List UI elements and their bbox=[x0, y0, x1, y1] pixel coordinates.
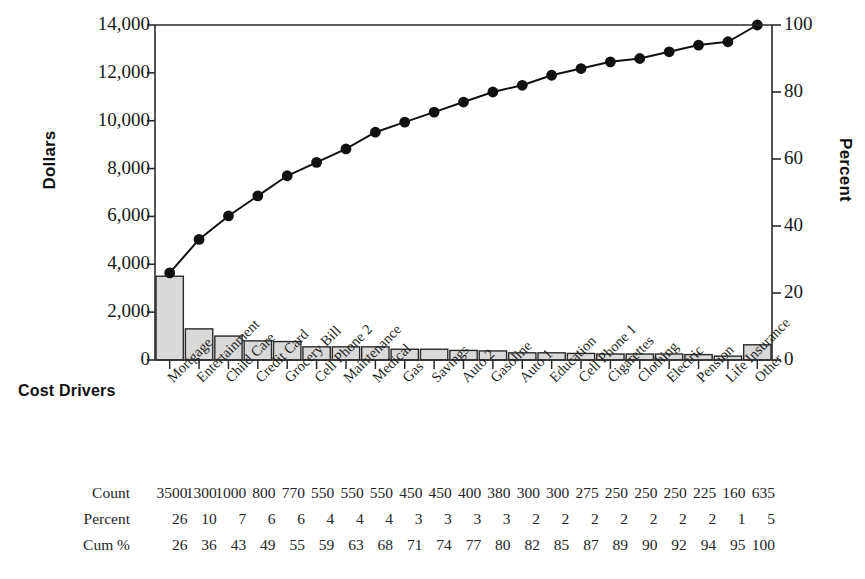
y-tick-label-left: 2,000 bbox=[58, 300, 150, 322]
y-tick-label-right: 60 bbox=[784, 147, 844, 169]
line-marker bbox=[429, 107, 440, 118]
line-marker bbox=[252, 190, 263, 201]
line-marker bbox=[634, 53, 645, 64]
table-row-cum-percent: Cum %26364349555963687174778082858789909… bbox=[0, 532, 859, 558]
y-tick-label-right: 80 bbox=[784, 80, 844, 102]
y-tick-label-left: 8,000 bbox=[58, 157, 150, 179]
y-axis-right-title: Percent bbox=[835, 115, 855, 225]
table-row-count: Count35001300100080077055055055045045040… bbox=[0, 480, 859, 506]
y-tick-label-left: 14,000 bbox=[58, 13, 150, 35]
y-tick-label-right: 40 bbox=[784, 214, 844, 236]
y-tick-label-right: 100 bbox=[784, 13, 844, 35]
line-marker bbox=[282, 170, 293, 181]
line-marker bbox=[664, 46, 675, 57]
line-marker bbox=[487, 87, 498, 98]
line-marker bbox=[458, 97, 469, 108]
axis-ticks bbox=[147, 25, 781, 369]
table-values-cell: 2636434955596368717477808285878990929495… bbox=[139, 532, 859, 558]
pareto-data-table: Count35001300100080077055055055045045040… bbox=[0, 480, 865, 558]
cumulative-line-series bbox=[164, 20, 762, 279]
line-marker bbox=[517, 80, 528, 91]
table-row-label: Count bbox=[0, 480, 139, 506]
y-tick-label-left: 6,000 bbox=[58, 204, 150, 226]
y-tick-label-left: 4,000 bbox=[58, 252, 150, 274]
line-marker bbox=[693, 40, 704, 51]
line-marker bbox=[370, 127, 381, 138]
line-marker bbox=[164, 268, 175, 279]
y-tick-label-left: 12,000 bbox=[58, 61, 150, 83]
table-row-label: Cum % bbox=[0, 532, 139, 558]
y-tick-label-right: 20 bbox=[784, 281, 844, 303]
bar bbox=[156, 276, 183, 360]
line-marker bbox=[546, 70, 557, 81]
table-value: 100 bbox=[139, 536, 775, 554]
line-marker bbox=[194, 234, 205, 245]
plot-frame bbox=[155, 25, 772, 360]
line-marker bbox=[399, 117, 410, 128]
table-value: 5 bbox=[139, 510, 775, 528]
y-tick-label-right: 0 bbox=[784, 348, 844, 370]
y-tick-label-left: 10,000 bbox=[58, 109, 150, 131]
line-marker bbox=[605, 56, 616, 67]
line-marker bbox=[576, 63, 587, 74]
y-tick-label-left: 0 bbox=[58, 348, 150, 370]
y-axis-left-title: Dollars bbox=[40, 105, 60, 215]
x-axis-title: Cost Drivers bbox=[18, 382, 116, 400]
cumulative-line bbox=[170, 25, 758, 273]
line-marker bbox=[223, 211, 234, 222]
table-values-cell: 26107664443333222222215 bbox=[139, 506, 859, 532]
line-marker bbox=[723, 36, 734, 47]
table-value: 635 bbox=[139, 484, 775, 502]
data-table-grid: Count35001300100080077055055055045045040… bbox=[0, 480, 859, 558]
line-marker bbox=[341, 144, 352, 155]
line-marker bbox=[311, 157, 322, 168]
table-row-percent: Percent26107664443333222222215 bbox=[0, 506, 859, 532]
table-values-cell: 3500130010008007705505505504504504003803… bbox=[139, 480, 859, 506]
table-row-label: Percent bbox=[0, 506, 139, 532]
